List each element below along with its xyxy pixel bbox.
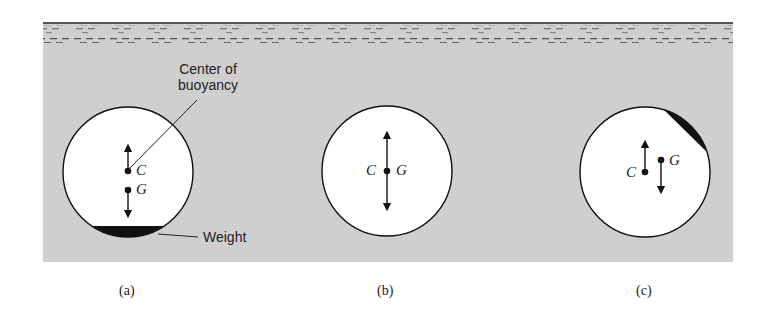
caption-c: (c) — [636, 283, 652, 299]
label-c: C — [136, 162, 146, 179]
buoyancy-diagram — [0, 0, 769, 319]
center-point — [384, 168, 391, 175]
center-of-buoyancy-label: Center of buoyancy — [170, 61, 246, 93]
label-line: buoyancy — [170, 77, 246, 93]
label-c: C — [626, 164, 636, 181]
label-c: C — [366, 162, 376, 179]
panel-b-body — [322, 106, 452, 236]
center-of-buoyancy-point — [125, 168, 132, 175]
water-surface-waves — [43, 25, 733, 43]
caption-b: (b) — [377, 283, 393, 299]
caption-a: (a) — [119, 283, 135, 299]
label-g: G — [396, 162, 407, 179]
label-line: Center of — [170, 61, 246, 77]
label-g: G — [136, 181, 147, 198]
label-g: G — [669, 152, 680, 169]
weight-label: Weight — [203, 229, 246, 245]
water-surface-line — [43, 22, 733, 24]
center-of-buoyancy-point — [642, 169, 649, 176]
